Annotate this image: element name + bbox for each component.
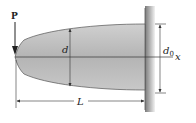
d0-label: d0	[163, 45, 174, 58]
d0-arrow-bottom-icon	[159, 89, 162, 93]
d0-arrow-top-icon	[159, 25, 162, 29]
x-axis-label: x	[175, 51, 181, 62]
length-arrow-right-icon	[141, 100, 145, 103]
beam-diagram: x P d d0 L	[0, 0, 196, 123]
fixed-wall	[145, 6, 155, 112]
length-label: L	[76, 96, 84, 107]
depth-label: d	[62, 44, 68, 55]
length-arrow-left-icon	[17, 100, 21, 103]
load-label: P	[11, 11, 18, 21]
